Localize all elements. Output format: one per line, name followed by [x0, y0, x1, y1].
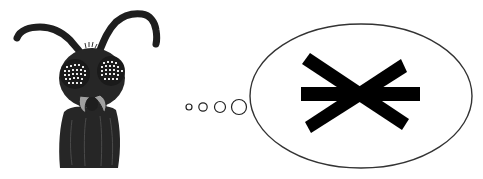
fly-illustration: [17, 14, 157, 168]
right-antenna: [100, 14, 157, 50]
thought-dot-3: [215, 102, 226, 113]
thought-trail: [186, 100, 247, 115]
thought-dot-2: [199, 103, 207, 111]
thought-dot-4: [232, 100, 247, 115]
thought-dot-1: [186, 104, 192, 110]
left-antenna: [17, 27, 80, 52]
scene: Cartoon fly thinking of a symbol inside …: [0, 0, 483, 179]
right-eye: [97, 56, 125, 86]
left-eye: [60, 59, 90, 89]
fly-body: [59, 106, 120, 168]
